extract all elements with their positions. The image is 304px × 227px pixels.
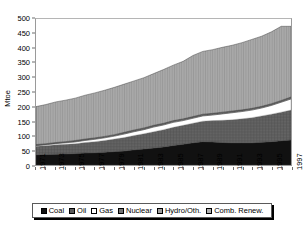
y-tick-label: 0 xyxy=(26,163,30,170)
y-axis-title: Mtoe xyxy=(3,79,12,119)
x-tick-mark xyxy=(94,167,95,170)
x-tick-mark xyxy=(55,167,56,170)
legend-item[interactable]: Oil xyxy=(69,207,86,215)
x-tick-mark xyxy=(84,167,85,170)
x-tick-mark xyxy=(193,167,194,170)
x-tick-mark xyxy=(292,167,293,170)
x-tick-mark xyxy=(213,167,214,170)
x-tick-mark xyxy=(272,167,273,170)
legend-item[interactable]: Gas xyxy=(91,207,113,215)
x-tick-mark xyxy=(104,167,105,170)
y-tick-label: 300 xyxy=(17,74,30,81)
x-tick-label: 1997 xyxy=(296,153,304,170)
x-tick-mark xyxy=(144,167,145,170)
x-tick-mark xyxy=(243,167,244,170)
x-tick-mark xyxy=(262,167,263,170)
legend-label: Nuclear xyxy=(126,207,152,215)
y-tick-label: 450 xyxy=(17,29,30,36)
x-tick-mark xyxy=(114,167,115,170)
stacked-area-plot xyxy=(36,19,291,165)
legend-label: Oil xyxy=(77,207,86,215)
x-tick-mark xyxy=(65,167,66,170)
x-tick-mark xyxy=(203,167,204,170)
legend-label: Comb. Renew. xyxy=(214,207,263,215)
legend-label: Coal xyxy=(49,207,64,215)
legend-item[interactable]: Nuclear xyxy=(118,207,152,215)
x-tick-mark xyxy=(124,167,125,170)
y-tick-label: 200 xyxy=(17,103,30,110)
x-tick-mark xyxy=(45,167,46,170)
x-tick-mark xyxy=(183,167,184,170)
y-tick-label: 100 xyxy=(17,133,30,140)
legend-swatch-icon xyxy=(118,208,124,214)
x-tick-mark xyxy=(134,167,135,170)
x-tick-mark xyxy=(233,167,234,170)
legend-item[interactable]: Comb. Renew. xyxy=(206,207,263,215)
x-tick-mark xyxy=(35,167,36,170)
y-tick-label: 400 xyxy=(17,44,30,51)
x-axis: 1971197319751977197919811983198519871989… xyxy=(35,167,292,201)
legend-swatch-icon xyxy=(157,208,163,214)
legend-swatch-icon xyxy=(69,208,75,214)
y-tick-label: 50 xyxy=(22,148,30,155)
legend-swatch-icon xyxy=(206,208,212,214)
legend-label: Gas xyxy=(99,207,113,215)
x-tick-mark xyxy=(75,167,76,170)
x-tick-mark xyxy=(154,167,155,170)
y-tick-label: 250 xyxy=(17,89,30,96)
x-tick-mark xyxy=(173,167,174,170)
y-tick-label: 150 xyxy=(17,118,30,125)
plot-area xyxy=(35,18,292,166)
legend-label: Hydro/Oth. xyxy=(165,207,201,215)
y-tick-label: 350 xyxy=(17,59,30,66)
x-tick-mark xyxy=(252,167,253,170)
legend-swatch-icon xyxy=(41,208,47,214)
chart-container: Mtoe 050100150200250300350400450500 xyxy=(0,0,303,227)
y-axis: Mtoe 050100150200250300350400450500 xyxy=(0,18,35,166)
legend-item[interactable]: Hydro/Oth. xyxy=(157,207,201,215)
legend-item[interactable]: Coal xyxy=(41,207,64,215)
legend-swatch-icon xyxy=(91,208,97,214)
x-tick-mark xyxy=(282,167,283,170)
y-tick-label: 500 xyxy=(17,15,30,22)
x-tick-mark xyxy=(164,167,165,170)
chart-legend: CoalOilGasNuclearHydro/Oth.Comb. Renew. xyxy=(32,203,272,218)
x-tick-mark xyxy=(223,167,224,170)
